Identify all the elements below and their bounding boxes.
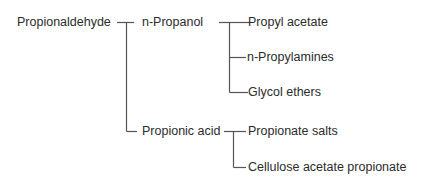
node-propionaldehyde: Propionaldehyde	[17, 15, 111, 29]
node-n-propanol: n-Propanol	[142, 15, 203, 29]
node-propionic-acid: Propionic acid	[142, 124, 221, 138]
node-n-propylamines: n-Propylamines	[247, 50, 334, 64]
derivatives-tree-diagram: Propionaldehyde n-Propanol Propyl acetat…	[0, 0, 430, 184]
node-propyl-acetate: Propyl acetate	[248, 15, 328, 29]
node-glycol-ethers: Glycol ethers	[248, 85, 321, 99]
node-cellulose-acetate-propionate: Cellulose acetate propionate	[248, 160, 406, 174]
node-propionate-salts: Propionate salts	[248, 124, 338, 138]
